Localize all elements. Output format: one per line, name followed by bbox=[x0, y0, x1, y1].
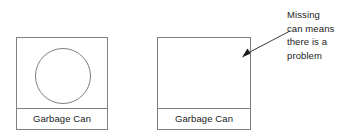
garbage-can-box-present: Garbage Can bbox=[16, 37, 108, 130]
garbage-can-label-missing: Garbage Can bbox=[158, 108, 250, 129]
can-box-body-present bbox=[17, 38, 107, 109]
annotation-text-block: Missing can means there is a problem bbox=[287, 8, 355, 62]
annotation-line-3: there is a bbox=[287, 35, 355, 49]
annotation-line-4: problem bbox=[287, 49, 355, 63]
annotation-line-2: can means bbox=[287, 22, 355, 36]
can-box-body-missing bbox=[158, 38, 250, 109]
diagram-canvas: Garbage Can Garbage Can Missing can mean… bbox=[0, 0, 357, 136]
annotation-line-1: Missing bbox=[287, 8, 355, 22]
garbage-can-circle-icon bbox=[35, 48, 91, 104]
garbage-can-box-missing: Garbage Can bbox=[157, 37, 251, 130]
garbage-can-label-present: Garbage Can bbox=[17, 108, 107, 129]
